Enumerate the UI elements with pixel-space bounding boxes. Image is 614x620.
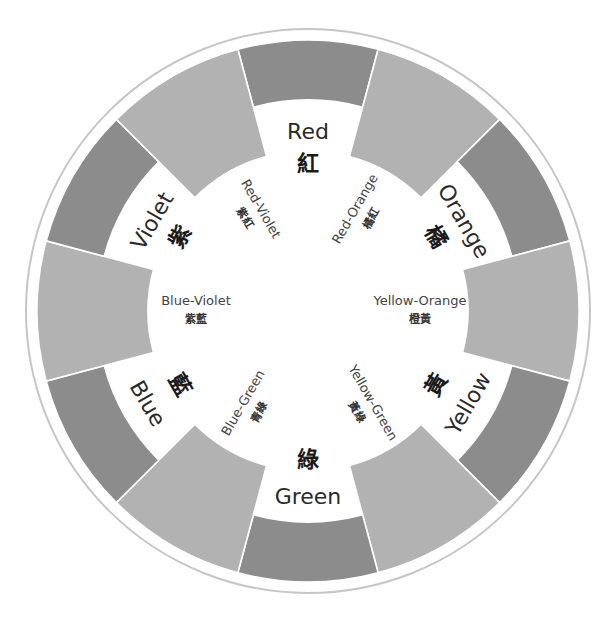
label-yellow-green: Yellow-Green黃綠: [345, 362, 401, 444]
color-wheel: Red紅Red-Orange橘紅Orange橘Yellow-Orange橙黃Ye…: [0, 0, 614, 620]
label-green: Green綠: [275, 447, 342, 509]
label-en: Blue: [125, 376, 171, 431]
label-zh: 黃: [420, 369, 453, 401]
label-yellow-orange: Yellow-Orange橙黃: [372, 293, 466, 326]
segment-green: [238, 515, 378, 582]
label-en: Blue-Violet: [161, 293, 231, 308]
label-blue-violet: Blue-Violet紫藍: [161, 293, 231, 326]
label-zh: 紅: [297, 151, 319, 176]
label-blue-green: Blue-Green青綠: [218, 367, 271, 438]
label-zh: 紫藍: [185, 312, 207, 326]
label-zh: 藍: [164, 369, 197, 401]
segment-blue-violet: [37, 241, 153, 381]
label-en: Green: [275, 484, 342, 509]
label-zh: 綠: [297, 447, 320, 472]
label-red: Red紅: [287, 119, 329, 176]
label-blue: Blue藍: [125, 369, 196, 431]
label-zh: 橙黃: [409, 312, 431, 326]
segment-red: [238, 40, 378, 107]
segment-yellow-orange: [463, 241, 579, 381]
label-en: Red: [287, 119, 329, 144]
label-violet: Violet紫: [126, 187, 196, 254]
label-zh: 橘: [420, 221, 453, 253]
label-red-violet: Red-Violet紫紅: [234, 177, 284, 241]
label-zh: 紫: [164, 221, 197, 253]
label-red-orange: Red-Orange橘紅: [329, 171, 383, 246]
label-en: Yellow-Orange: [372, 293, 466, 308]
